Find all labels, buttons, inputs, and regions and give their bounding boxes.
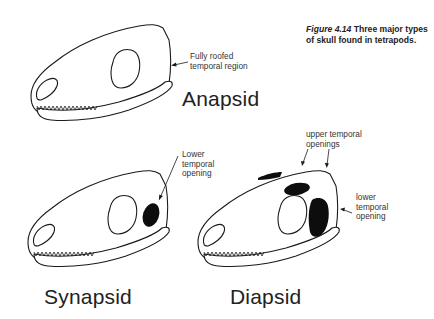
figure-caption: Figure 4.14 Three major types of skull f… [306,24,434,46]
diapsid-upper-annotation: upper temporal openings [306,130,362,149]
skull-diagram-art [0,0,434,319]
diapsid-skull [198,171,339,267]
anapsid-skull [31,25,172,121]
figure-number: Figure 4.14 [306,24,351,34]
synapsid-annotation: Lower temporal opening [182,150,214,179]
diapsid-upper-arrows [301,149,329,168]
anapsid-annotation: Fully roofed temporal region [190,52,248,71]
anapsid-label: Anapsid [182,87,259,111]
synapsid-skull [28,171,169,267]
synapsid-label: Synapsid [44,285,132,309]
diapsid-lower-annotation: lower temporal opening [356,193,388,222]
annotation-line: temporal region [190,62,248,72]
annotation-line: openings [306,140,362,150]
annotation-line: opening [356,212,388,222]
anapsid-arrow [171,62,188,67]
annotation-line: opening [182,169,214,179]
diapsid-lower-arrow [340,208,352,213]
diapsid-label: Diapsid [230,285,301,309]
